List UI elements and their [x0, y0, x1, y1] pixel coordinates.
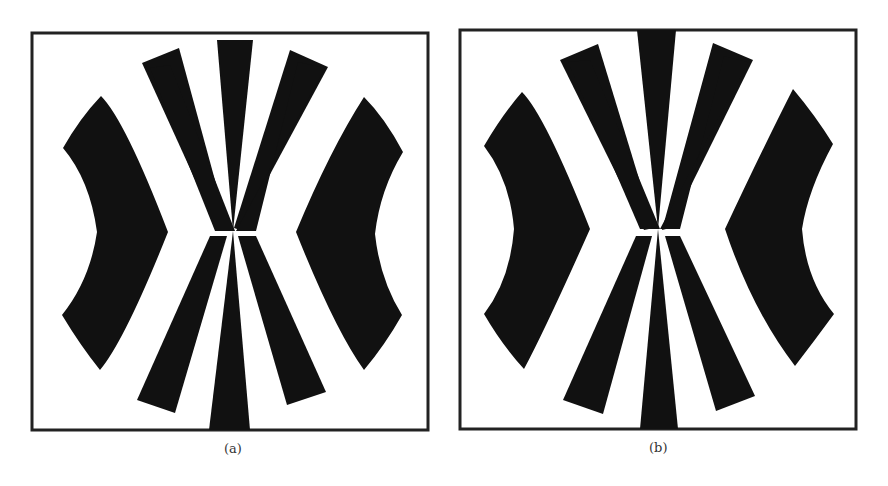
pattern-shapes-b [484, 30, 834, 429]
panel-b: (b) [0, 0, 888, 486]
fan-target-pattern-b [0, 0, 888, 486]
caption-b: (b) [649, 440, 667, 455]
